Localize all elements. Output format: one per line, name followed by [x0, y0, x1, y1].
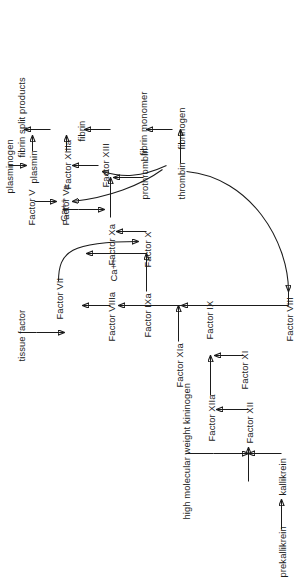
node-thrombin: thrombin [176, 162, 185, 199]
node-factor-viii: Factor VIII [284, 297, 293, 341]
node-factor-viiia: Factor VIIIa [106, 291, 115, 341]
node-factor-ix: Factor IX [204, 300, 213, 339]
node-fibrinogen: fibrinogen [176, 107, 185, 149]
node-factor-xa: Factor Xa [106, 223, 115, 265]
node-fibrin-monomer: fibrin monomer [138, 91, 147, 155]
diagram-canvas: prekallikrein kallikrein high molecular … [0, 0, 304, 581]
node-factor-va: Factor Va [60, 184, 69, 225]
node-factor-xi: Factor XI [239, 350, 248, 389]
node-plasmin: plasmin [28, 150, 37, 183]
node-factor-xiii: Factor XIII [100, 143, 109, 187]
node-factor-xii: Factor XII [244, 401, 253, 443]
node-prekallikrein: prekallikrein [277, 526, 286, 577]
node-factor-x: Factor X [142, 231, 151, 267]
node-factor-xiia: Factor XIIa [206, 394, 215, 441]
node-fibrin: fibrin [76, 120, 85, 141]
node-factor-v: Factor V [26, 189, 35, 225]
node-factor-xia: Factor XIa [174, 343, 183, 387]
node-factor-ixa: Factor IXa [142, 293, 151, 337]
cascade-connectors [0, 0, 304, 581]
coagulation-cascade: prekallikrein kallikrein high molecular … [0, 0, 304, 581]
node-high-molecular-weight-kininogen: high molecular weight kininogen [181, 382, 190, 519]
node-factor-xiiia: Factor XIIIa [62, 139, 71, 189]
node-kallikrein: kallikrein [277, 458, 286, 495]
node-factor-vii: Factor VII [54, 277, 63, 319]
node-fibrin-split-products: fibrin split products [16, 77, 25, 157]
node-plasminogen: plasminogen [4, 139, 13, 193]
node-prothrombin: prothrombin [139, 148, 148, 199]
node-tissue-factor: tissue factor [16, 309, 25, 361]
